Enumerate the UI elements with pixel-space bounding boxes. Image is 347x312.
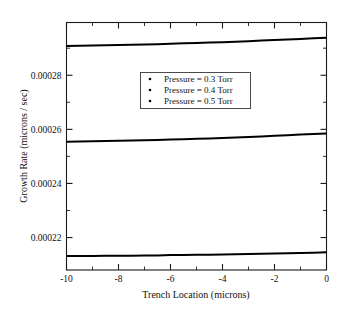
legend-entry-label: Pressure = 0.4 Torr — [164, 85, 233, 95]
y-axis-tick-labels: 0.000220.000240.000260.00028 — [31, 71, 62, 243]
x-tick-label: -10 — [60, 274, 73, 284]
chart-legend: Pressure = 0.3 TorrPressure = 0.4 TorrPr… — [141, 73, 251, 109]
series-line — [67, 38, 327, 46]
axis-ticks — [67, 23, 327, 271]
y-axis-title: Growth Rate (microns / sec) — [18, 89, 30, 202]
x-tick-label: -4 — [219, 274, 227, 284]
chart-figure: -10-8-6-4-20 0.000220.000240.000260.0002… — [0, 0, 347, 312]
y-tick-label: 0.00026 — [31, 125, 62, 135]
y-tick-label: 0.00022 — [31, 233, 62, 243]
growth-rate-line-chart: -10-8-6-4-20 0.000220.000240.000260.0002… — [0, 0, 347, 312]
legend-marker-dot-icon — [149, 89, 152, 92]
y-tick-label: 0.00024 — [31, 179, 62, 189]
legend-marker-dot-icon — [149, 78, 152, 81]
x-tick-label: -2 — [271, 274, 279, 284]
x-tick-label: -6 — [167, 274, 175, 284]
x-axis-tick-labels: -10-8-6-4-20 — [60, 274, 329, 284]
plot-frame — [67, 23, 327, 271]
x-axis-title: Trench Location (microns) — [142, 289, 249, 301]
x-tick-label: -8 — [115, 274, 123, 284]
x-tick-label: 0 — [324, 274, 329, 284]
y-tick-label: 0.00028 — [31, 71, 62, 81]
legend-entry-label: Pressure = 0.3 Torr — [164, 74, 233, 84]
data-series-group — [67, 38, 327, 256]
legend-entry-label: Pressure = 0.5 Torr — [164, 96, 233, 106]
legend-marker-dot-icon — [149, 100, 152, 103]
series-line — [67, 133, 327, 141]
series-line — [67, 252, 327, 256]
